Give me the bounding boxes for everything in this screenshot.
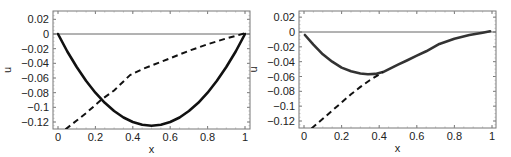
y-axis-label: u [1, 67, 13, 73]
y-tick-label: −0.08 [267, 85, 295, 97]
figure: 0.020−0.02−0.04−0.06−0.08−0.1−0.1200.20.… [0, 0, 511, 157]
y-tick-label: −0.06 [267, 71, 295, 83]
x-tick-label: 0.8 [200, 131, 215, 143]
x-tick-label: 0.8 [447, 130, 462, 142]
y-tick-label: −0.1 [273, 100, 295, 112]
x-tick-label: 0.6 [163, 131, 178, 143]
y-tick-label: −0.02 [21, 43, 49, 55]
x-tick-label: 0 [55, 131, 61, 143]
x-axis-label: x [395, 142, 401, 154]
solid-curve [58, 34, 245, 126]
y-tick-label: −0.1 [27, 101, 49, 113]
x-axis-label: x [149, 143, 155, 155]
y-tick-label: −0.12 [267, 115, 295, 127]
y-tick-label: 0.02 [28, 13, 49, 25]
x-tick-label: 0.4 [372, 130, 387, 142]
x-tick-label: 0.6 [409, 130, 424, 142]
x-tick-label: 1 [489, 130, 495, 142]
y-tick-label: −0.12 [21, 116, 49, 128]
x-tick-label: 0.2 [88, 131, 103, 143]
dashed-curve [312, 72, 384, 128]
x-tick-label: 0 [301, 130, 307, 142]
solid-curve [305, 31, 490, 74]
y-tick-label: −0.04 [21, 57, 49, 69]
x-tick-label: 1 [242, 131, 248, 143]
y-axis-label: u [247, 66, 259, 72]
right-plot-panel: 0.020−0.02−0.04−0.06−0.08−0.1−0.1200.20.… [247, 11, 496, 154]
y-tick-label: −0.02 [267, 41, 295, 53]
y-tick-label: 0 [43, 28, 49, 40]
y-tick-label: 0.02 [274, 11, 295, 23]
plot-frame [299, 11, 496, 128]
y-tick-label: −0.04 [267, 56, 295, 68]
y-tick-label: −0.08 [21, 87, 49, 99]
plot-frame [53, 11, 250, 129]
x-tick-label: 0.4 [125, 131, 140, 143]
y-tick-label: −0.06 [21, 72, 49, 84]
left-plot-panel: 0.020−0.02−0.04−0.06−0.08−0.1−0.1200.20.… [1, 11, 250, 155]
x-tick-label: 0.2 [334, 130, 349, 142]
y-tick-label: 0 [289, 26, 295, 38]
